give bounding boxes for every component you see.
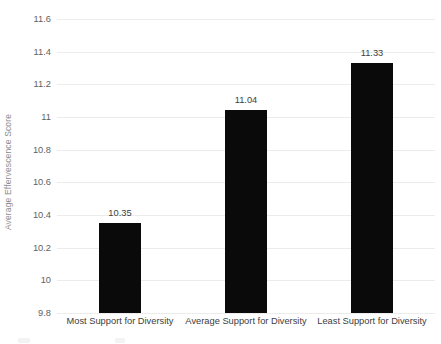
bar-chart: Average Effervescence Score 11.611.411.2… [0, 0, 441, 344]
y-axis-tick-label: 10.2 [5, 243, 51, 253]
y-axis-tick-label: 11.2 [5, 79, 51, 89]
y-axis-tick-labels: 11.611.411.21110.810.610.410.2109.8 [0, 19, 51, 313]
y-axis-tick-label: 10 [5, 275, 51, 285]
bar [225, 110, 267, 313]
bar-value-label: 11.04 [235, 95, 258, 105]
bar [99, 223, 141, 313]
y-axis-tick-label: 10.6 [5, 177, 51, 187]
scan-artifact [18, 338, 30, 343]
bar [351, 63, 393, 313]
y-axis-tick-label: 11 [5, 112, 51, 122]
gridline [57, 313, 435, 314]
x-axis-category-label: Most Support for Diversity [67, 316, 174, 326]
gridline [57, 19, 435, 20]
y-axis-tick-label: 11.4 [5, 47, 51, 57]
plot-area: 10.3511.0411.33 [57, 19, 435, 313]
scan-artifact [115, 338, 125, 343]
x-axis-category-label: Least Support for Diversity [317, 316, 427, 326]
bar-value-label: 10.35 [108, 208, 131, 218]
y-axis-tick-label: 9.8 [5, 308, 51, 318]
x-axis-category-labels: Most Support for DiversityAverage Suppor… [57, 316, 435, 332]
y-axis-tick-label: 10.8 [5, 145, 51, 155]
bar-value-label: 11.33 [361, 48, 384, 58]
y-axis-tick-label: 11.6 [5, 14, 51, 24]
x-axis-category-label: Average Support for Diversity [185, 316, 306, 326]
y-axis-tick-label: 10.4 [5, 210, 51, 220]
